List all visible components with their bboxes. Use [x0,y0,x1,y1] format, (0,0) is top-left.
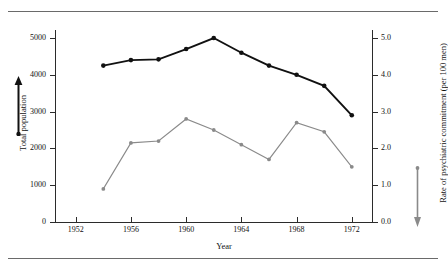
right-tick-label: 0.0 [381,218,391,226]
data-point-marker [101,187,105,191]
x-tick-label: 1952 [56,226,96,234]
right-tick-label: 5.0 [381,34,391,42]
left-axis-line [55,30,56,223]
total-population-arrow-icon [14,76,23,136]
left-tick-mark [50,112,55,113]
data-point-marker [349,113,354,118]
data-point-marker [157,139,161,143]
left-tick-label: 1000 [30,181,46,189]
left-tick-mark [50,185,55,186]
x-tick-label: 1968 [277,226,317,234]
commitment-rate-arrow-icon [413,165,422,227]
right-tick-label: 1.0 [381,181,391,189]
data-point-marker [322,130,326,134]
left-tick-label: 4000 [30,71,46,79]
top-rule [8,11,438,12]
left-tick-label: 5000 [30,34,46,42]
data-point-marker [322,84,327,89]
right-tick-label: 3.0 [381,108,391,116]
x-tick-mark [76,217,77,222]
data-point-marker [211,36,216,41]
right-tick-mark [373,75,378,76]
x-axis-title: Year [194,241,254,251]
left-tick-label: 3000 [30,108,46,116]
left-tick-mark [50,148,55,149]
data-point-marker [129,58,134,63]
x-tick-label: 1956 [111,226,151,234]
x-tick-label: 1960 [166,226,206,234]
x-tick-mark [352,217,353,222]
right-tick-mark [373,148,378,149]
right-tick-mark [373,222,378,223]
x-tick-mark [131,217,132,222]
left-tick-label: 0 [42,218,46,226]
x-axis-line [55,222,373,223]
x-tick-mark [186,217,187,222]
data-point-marker [184,47,189,52]
series-line [103,119,351,189]
data-point-marker [129,141,133,145]
x-tick-mark [297,217,298,222]
data-point-marker [156,57,161,62]
x-tick-label: 1972 [332,226,372,234]
data-point-marker [184,117,188,121]
bottom-rule [8,258,438,259]
data-point-marker [350,165,354,169]
series-2 [101,117,353,191]
left-tick-mark [50,222,55,223]
right-tick-label: 4.0 [381,71,391,79]
x-tick-mark [241,217,242,222]
data-point-marker [239,143,243,147]
right-tick-label: 2.0 [381,144,391,152]
data-point-marker [267,63,272,68]
right-axis-line [372,30,373,223]
left-tick-mark [50,75,55,76]
right-tick-mark [373,185,378,186]
right-axis-title: Rate of psychiatric commitment (per 100 … [438,23,448,223]
series-line [103,38,351,115]
data-point-marker [294,73,299,78]
data-point-marker [212,128,216,132]
data-point-marker [101,63,106,68]
left-tick-label: 2000 [30,144,46,152]
data-point-marker [239,50,244,55]
data-point-marker [295,121,299,125]
x-tick-label: 1964 [221,226,261,234]
data-point-marker [267,158,271,162]
series-1 [101,36,354,118]
right-tick-mark [373,38,378,39]
left-tick-mark [50,38,55,39]
right-tick-mark [373,112,378,113]
